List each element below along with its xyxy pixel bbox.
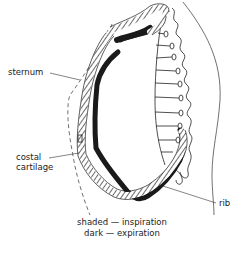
sternum-leader-line [50,73,80,80]
vertebral-column [155,18,165,165]
rib-leader-line [163,186,216,203]
sternum-label: sternum [8,67,43,77]
expiration-upper-rib [117,28,150,40]
legend-item-expiration: dark — expiration [0,228,244,239]
costal-cartilage-label-line2: cartilage [16,162,53,172]
costal-cartilage-label: costal cartilage [16,152,53,172]
costal-cartilage-leader-line [49,153,79,158]
back-contour [183,2,220,215]
rib-cage-diagram [0,0,244,253]
inspiration-upper-rib [112,7,166,32]
costal-cartilage-label-line1: costal [16,152,53,162]
rib-label: rib [219,198,230,208]
legend-item-inspiration: shaded — inspiration [0,217,244,228]
rib-heads [155,31,183,152]
legend: shaded — inspiration dark — expiration [0,217,244,239]
